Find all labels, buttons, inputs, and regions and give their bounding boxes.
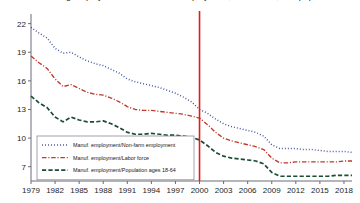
y-tick-label: 7 [22, 163, 27, 172]
x-tick-label: 1997 [167, 186, 185, 195]
y-axis-ticks: 71013161922 [17, 20, 31, 172]
chart-container: Manufacturing employment as a share of e… [0, 0, 360, 203]
legend-label-2: Manuf. employment/Population ages 18-64 [73, 167, 176, 173]
x-tick-label: 2018 [335, 186, 353, 195]
x-tick-label: 1994 [142, 186, 160, 195]
series-line-0 [31, 27, 352, 152]
y-tick-label: 10 [17, 134, 26, 143]
x-tick-label: 2015 [311, 186, 329, 195]
legend-label-0: Manuf. employment/Non-farm employment [73, 142, 176, 148]
x-axis-ticks: 1979198219851988199119941997200020032006… [22, 181, 353, 195]
legend-label-1: Manuf. employment/Labor force [73, 155, 149, 161]
x-tick-label: 2006 [239, 186, 257, 195]
y-tick-label: 16 [17, 77, 26, 86]
y-tick-label: 13 [17, 105, 26, 114]
x-tick-label: 1991 [118, 186, 136, 195]
y-tick-label: 22 [17, 20, 26, 29]
x-tick-label: 1988 [94, 186, 112, 195]
x-tick-label: 1982 [46, 186, 64, 195]
chart-legend: Manuf. employment/Non-farm employmentMan… [37, 136, 194, 180]
x-tick-label: 2009 [263, 186, 281, 195]
y-tick-label: 19 [17, 48, 26, 57]
x-tick-label: 2012 [287, 186, 305, 195]
x-tick-label: 1985 [70, 186, 88, 195]
chart-plot-area: 71013161922 1979198219851988199119941997… [0, 0, 360, 203]
x-tick-label: 2003 [215, 186, 233, 195]
x-tick-label: 2000 [191, 186, 209, 195]
x-tick-label: 1979 [22, 186, 40, 195]
